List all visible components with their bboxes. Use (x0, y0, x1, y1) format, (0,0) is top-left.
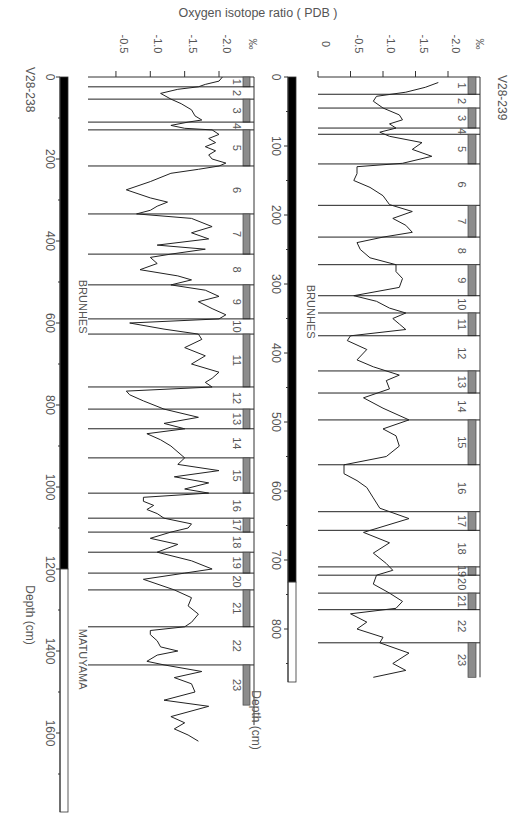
polarity-label: BRUNHES (77, 280, 89, 334)
stage-bar (468, 567, 476, 575)
stage-label: 1 (456, 83, 468, 89)
stage-bar (468, 108, 476, 128)
stage-bar (468, 313, 476, 336)
stage-label: 16 (231, 500, 243, 512)
polarity-band (60, 569, 68, 812)
polarity-label: BRUNHES (305, 285, 317, 339)
y-tick-label: 1200 (43, 556, 57, 583)
x-tick-label: -1.5 (418, 35, 430, 54)
stage-label: 12 (456, 347, 468, 359)
stage-label: 17 (456, 515, 468, 527)
y-tick-label: 1600 (43, 720, 57, 747)
stage-bar (243, 458, 250, 493)
stage-label: 21 (456, 595, 468, 607)
stage-label: 21 (231, 602, 243, 614)
x-tick-label: -0.5 (118, 35, 130, 54)
stage-label: 14 (231, 437, 243, 449)
stage-label: 5 (456, 146, 468, 152)
y-tick-label: 200 (269, 205, 283, 225)
stage-label: 18 (231, 536, 243, 548)
stage-bar (468, 77, 476, 94)
stage-bar (243, 552, 250, 573)
stage-label: 8 (456, 248, 468, 254)
stage-bar (243, 518, 250, 532)
stage-label: 1 (231, 79, 243, 85)
y-tick-label: 700 (269, 550, 283, 570)
y-tick-label: 600 (269, 481, 283, 501)
stage-label: 20 (231, 575, 243, 587)
y-tick-label: 1000 (43, 474, 57, 501)
stage-label: 20 (456, 578, 468, 590)
stage-label: 8 (231, 266, 243, 272)
stage-label: 4 (231, 123, 243, 129)
y-tick-label: 100 (269, 136, 283, 156)
stage-label: 4 (456, 128, 468, 134)
stage-label: 23 (231, 679, 243, 691)
core-label: V28-239 (495, 75, 509, 121)
stage-label: 13 (231, 413, 243, 425)
x-tick-label: 0 (320, 41, 332, 47)
y-tick-label: 0 (43, 74, 57, 81)
stage-label: 10 (231, 320, 243, 332)
y-tick-label: 1400 (43, 638, 57, 665)
stage-bar (243, 214, 250, 254)
x-tick-label: -1.5 (187, 35, 199, 54)
stage-label: 16 (456, 482, 468, 494)
unit-label: ‰ (474, 39, 486, 50)
x-tick-label: -2.0 (450, 35, 462, 54)
polarity-band (288, 582, 296, 682)
stage-label: 11 (231, 355, 243, 366)
stage-label: 5 (231, 145, 243, 151)
stage-label: 3 (456, 115, 468, 121)
unit-label: ‰ (247, 39, 259, 50)
oxygen-isotope-chart: Oxygen isotope ratio ( PDB ) -0.5-1.0-1.… (0, 0, 517, 819)
stage-label: 15 (456, 436, 468, 448)
stage-label: 11 (456, 319, 468, 330)
stage-label: 9 (456, 277, 468, 283)
stage-label: 7 (231, 231, 243, 237)
stage-bar (468, 134, 476, 164)
y-axis-title: Depth (cm) (249, 690, 263, 749)
y-tick-label: 400 (43, 231, 57, 251)
stage-bar (468, 205, 476, 237)
stage-bar (243, 409, 250, 429)
stage-bar (243, 665, 250, 705)
polarity-label: MATUYAMA (77, 629, 89, 690)
stage-label: 17 (231, 519, 243, 531)
y-tick-label: 600 (43, 313, 57, 333)
y-axis-title: Depth (cm) (23, 585, 37, 644)
chart-title: Oxygen isotope ratio ( PDB ) (178, 6, 337, 20)
stage-bar (243, 130, 250, 166)
y-tick-label: 500 (269, 412, 283, 432)
stage-label: 23 (456, 654, 468, 666)
stage-label: 22 (231, 640, 243, 652)
stage-bar (468, 643, 476, 678)
y-tick-label: 300 (269, 274, 283, 294)
stage-label: 15 (231, 469, 243, 481)
stage-bar (468, 265, 476, 296)
stage-label: 2 (456, 98, 468, 104)
stage-label: 7 (456, 218, 468, 224)
stage-bar (243, 334, 250, 387)
stage-label: 18 (456, 542, 468, 554)
stage-label: 6 (231, 187, 243, 193)
stage-label: 12 (231, 392, 243, 404)
stage-label: 13 (456, 376, 468, 388)
stage-bar (468, 420, 476, 465)
stage-label: 2 (231, 90, 243, 96)
x-tick-label: -0.5 (353, 35, 365, 54)
y-tick-label: 200 (43, 149, 57, 169)
stage-label: 14 (456, 400, 468, 412)
stage-bar (243, 99, 250, 122)
stage-bar (243, 285, 250, 319)
x-tick-label: -1.0 (152, 35, 164, 54)
stage-label: 9 (231, 299, 243, 305)
stage-bar (243, 590, 250, 627)
panel-v28-239: 0-0.5-1.0-1.5-2.0‰1234567891011121314151… (249, 35, 509, 750)
panel-v28-238: -0.5-1.0-1.5-2.0‰12345678910111213141516… (23, 35, 259, 812)
stage-bar (468, 593, 476, 610)
isotope-curve (344, 83, 438, 678)
y-tick-label: 400 (269, 343, 283, 363)
polarity-band (60, 77, 68, 569)
stage-label: 6 (456, 182, 468, 188)
